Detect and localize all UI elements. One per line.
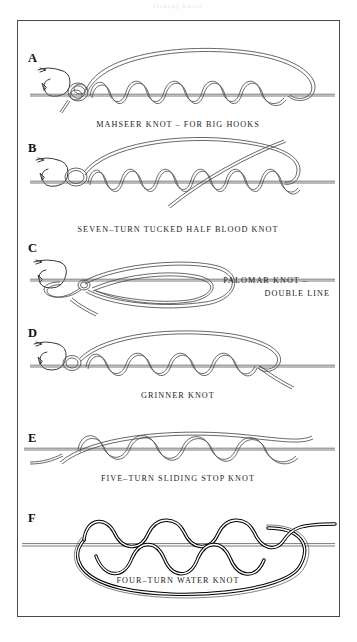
tag-end-d [258, 368, 292, 389]
figure-a: A [28, 48, 335, 129]
tag-end-d2 [260, 366, 294, 387]
loop-arc-d2 [81, 334, 278, 369]
hook-icon-b [36, 158, 68, 186]
figure-caption-b: SEVEN–TURN TUCKED HALF BLOOD KNOT [78, 225, 279, 234]
knot-loop-b [65, 168, 87, 186]
loop-arc-a [86, 48, 315, 100]
knot-coil-a [60, 83, 88, 113]
figure-caption-c-line2: DOUBLE LINE [265, 289, 330, 298]
figure-c: C PALOMAR KNOT – DOUBLE LINE [28, 241, 335, 316]
figure-letter-c: C [28, 241, 37, 255]
water-knot-lower-bights-f [96, 545, 264, 575]
tag-end-c2 [72, 298, 98, 314]
water-knot-halo-f [74, 525, 308, 598]
figure-caption-a: MAHSEER KNOT – FOR BIG HOOKS [96, 120, 260, 129]
figure-b: B SEVEN–TUR [28, 137, 335, 234]
figure-caption-d: GRINNER KNOT [141, 391, 215, 400]
palomar-cinch-c [78, 280, 90, 290]
figure-letter-d: D [28, 326, 37, 340]
figure-f: F FOUR–TURN WATER KNOT [22, 511, 335, 598]
helix-wraps-d [86, 353, 257, 376]
figure-e: E FIVE–TURN SLIDING STOP KNOT [24, 431, 335, 483]
figure-caption-f: FOUR–TURN WATER KNOT [116, 576, 239, 585]
palomar-cinch-c2 [81, 282, 88, 288]
page-root: fishing knots A [0, 0, 357, 642]
figure-caption-c-line1: PALOMAR KNOT – [223, 276, 308, 285]
figure-letter-b: B [28, 141, 37, 155]
palomar-inner-loop-c2 [93, 276, 211, 301]
top-partial-text: fishing knots [153, 2, 202, 10]
knots-illustration: fishing knots A [0, 0, 357, 642]
helix-wraps-a [90, 81, 286, 105]
figure-letter-a: A [28, 51, 37, 65]
loop-arc-a2 [87, 51, 312, 98]
figure-letter-e: E [28, 431, 37, 445]
figure-caption-e: FIVE–TURN SLIDING STOP KNOT [101, 474, 255, 483]
hook-icon-a [38, 68, 70, 96]
figure-d: D GRINNER KNOT [28, 326, 335, 400]
tag-end-e [30, 454, 62, 462]
figure-letter-f: F [28, 511, 36, 525]
knot-eye-d [63, 356, 81, 371]
loop-arc-b3 [240, 140, 300, 184]
tag-end-c [70, 300, 96, 316]
hook-icon-d [34, 342, 66, 370]
hook-icon-c [34, 260, 66, 288]
